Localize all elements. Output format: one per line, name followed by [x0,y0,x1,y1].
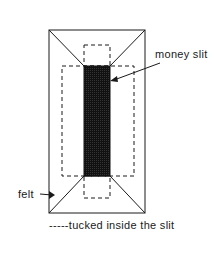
fold-line-top-left [49,30,84,66]
fold-line-bottom-right [110,176,145,213]
fold-line-top-right [110,30,145,66]
tucked-bottom-flap [84,176,110,198]
wallet-fold-diagram: money slit felt -----tucked inside the s… [0,0,216,271]
money-slit-label: money slit [155,48,208,60]
tucked-top-flap [84,45,110,66]
felt-label: felt [18,188,34,200]
money-slit-arrowhead-icon [110,76,118,82]
legend-caption: -----tucked inside the slit [49,219,174,231]
felt-arrowhead-icon [49,191,55,199]
money-slit [84,66,110,176]
